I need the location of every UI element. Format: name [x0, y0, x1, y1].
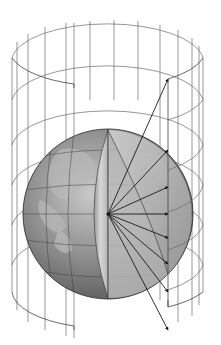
cylindrical-projection-diagram — [0, 0, 221, 345]
cylinder-top-rim — [12, 58, 74, 88]
projection-center-point — [106, 212, 109, 215]
